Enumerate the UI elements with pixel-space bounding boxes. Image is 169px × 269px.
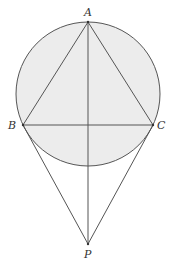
label-c: C (157, 119, 166, 132)
geometry-diagram: A B C P (0, 0, 169, 269)
label-b: B (7, 119, 16, 132)
point-p-dot (87, 243, 89, 245)
point-a-dot (87, 21, 89, 23)
label-a: A (83, 6, 92, 19)
point-b-dot (22, 124, 24, 126)
point-c-dot (152, 124, 154, 126)
label-p: P (83, 248, 92, 261)
